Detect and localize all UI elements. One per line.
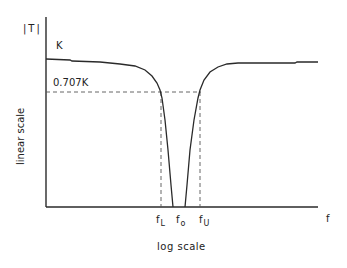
freq-label-fl-sub: L bbox=[161, 219, 165, 228]
level-707-label: 0.707K bbox=[53, 78, 88, 88]
freq-label-fo-sub: o bbox=[181, 219, 186, 228]
freq-label-fu: fU bbox=[199, 215, 209, 225]
freq-label-fu-main: f bbox=[199, 214, 203, 225]
freq-label-fo: fo bbox=[176, 215, 185, 225]
freq-label-fl-main: f bbox=[156, 214, 160, 225]
freq-label-fo-main: f bbox=[176, 214, 180, 225]
level-k-label: K bbox=[56, 41, 63, 51]
y-axis-scale-label: linear scale bbox=[15, 108, 26, 165]
response-curve-right bbox=[185, 62, 318, 207]
notch-filter-diagram bbox=[0, 0, 347, 268]
freq-label-fl: fL bbox=[156, 215, 165, 225]
freq-label-fu-sub: U bbox=[204, 219, 210, 228]
y-axis-title: |T| bbox=[23, 24, 42, 34]
x-axis-scale-label: log scale bbox=[157, 242, 206, 252]
x-axis-title: f bbox=[326, 214, 330, 224]
